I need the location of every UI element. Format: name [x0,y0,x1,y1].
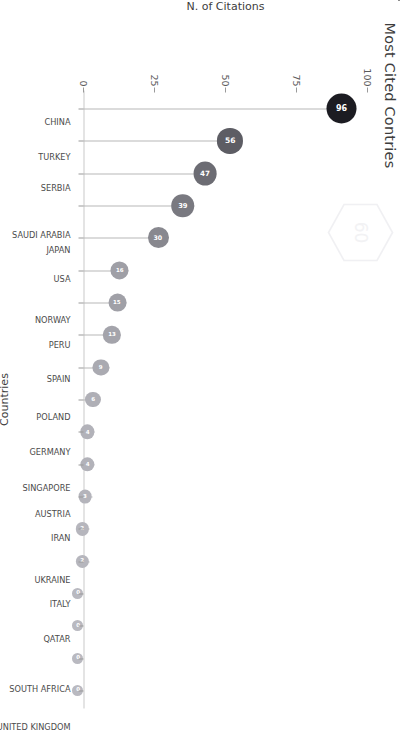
category-axis-tick-mark [78,367,83,368]
category-axis-tick-label: POLAND [36,411,70,421]
lollipop-head[interactable]: 16 [110,261,128,279]
category-axis-tick-label: IRAN [51,533,71,543]
category-axis-tick-mark [78,496,83,497]
category-axis-tick-label: CHINA [44,116,70,126]
category-axis-tick-mark [78,561,83,562]
category-axis-tick-mark [78,302,83,303]
lollipop-head[interactable]: 6 [85,391,100,406]
category-axis-tick-mark [78,431,83,432]
category-axis-tick-mark [78,399,83,400]
category-axis-tick-mark [78,658,83,659]
y-axis-label: N. of Citations [186,0,264,13]
category-axis-tick-label: SERBIA [40,183,70,193]
category-axis-tick-mark [78,528,83,529]
category-axis-tick-mark [78,140,83,141]
value-axis-tick-mark [225,87,226,92]
category-axis-tick-mark [78,270,83,271]
category-axis-tick-label: SPAIN [46,374,70,384]
category-axis-tick-label: ITALY [49,598,70,608]
data-point-value-label: 9 [99,364,103,370]
value-axis-tick-mark [154,87,155,92]
lollipop-head[interactable]: 39 [171,194,194,217]
value-axis-tick-label: 50 [220,48,231,86]
figure-page: Most Cited Contries 60 0255075100 965647… [0,0,413,744]
category-axis-tick-label: SOUTH AFRICA [9,683,70,693]
category-axis-tick-label: UNITED KINGDOM [0,722,70,732]
value-axis-tick-mark [83,87,84,92]
category-axis-tick-label: NORWAY [34,315,70,325]
category-axis-tick-mark [78,593,83,594]
data-point-value-label: 4 [85,429,89,435]
category-axis-tick-label: GERMANY [29,447,70,457]
category-axis-tick-label: TURKEY [38,152,70,162]
category-axis-tick-mark [78,625,83,626]
value-axis-tick-label: 75 [291,48,302,86]
data-point-value-label: 56 [224,137,234,145]
data-point-value-label: 96 [335,104,346,112]
lollipop-head[interactable]: 47 [193,161,217,185]
data-point-value-label: 6 [91,396,95,402]
category-axis-tick-label: PERU [48,340,70,350]
category-axis-tick-label: SINGAPORE [22,483,70,493]
category-axis-tick-label: SAUDI ARABIA [12,229,70,239]
category-axis-tick-mark [78,173,83,174]
data-point-value-label: 39 [178,202,187,209]
data-point-value-label: 13 [107,332,115,338]
data-point-value-label: 4 [85,461,89,467]
category-axis-tick-mark [78,334,83,335]
x-axis-label: Countries [0,373,10,426]
category-axis-tick-mark [78,108,83,109]
value-axis-tick-label: 0 [78,48,89,86]
value-axis-tick-label: 25 [149,48,160,86]
category-axis-tick-mark [78,464,83,465]
category-axis-tick-label: UKRAINE [34,574,70,584]
lollipop-head[interactable]: 13 [103,326,120,343]
category-axis-tick-mark [78,205,83,206]
page-title: Most Cited Contries [381,22,397,168]
chart-stage: Most Cited Contries 60 0255075100 965647… [0,0,413,744]
category-axis-tick-label: JAPAN [46,244,70,254]
plot-area: 0255075100 965647393016151396443220000 C… [83,92,367,706]
category-axis-tick-mark [78,690,83,691]
category-axis-tick-label: USA [53,273,70,283]
lollipop-stem [83,108,356,109]
lollipop-head[interactable]: 15 [108,293,126,311]
category-axis-tick-mark [78,237,83,238]
lollipop-head[interactable]: 96 [326,93,356,123]
value-axis-tick-mark [296,87,297,92]
lollipop-head[interactable]: 30 [147,227,168,248]
category-axis-tick-label: AUSTRIA [35,509,71,519]
data-point-value-label: 15 [113,299,121,305]
lollipop-head[interactable]: 56 [217,128,242,153]
value-axis-tick-label: 100 [362,48,373,86]
data-point-value-label: 16 [116,267,124,273]
data-point-value-label: 30 [153,234,162,240]
data-point-value-label: 47 [200,169,210,176]
lollipop-head[interactable]: 9 [92,359,108,375]
category-axis-tick-label: QATAR [43,634,70,644]
value-axis-tick-mark [367,87,368,92]
